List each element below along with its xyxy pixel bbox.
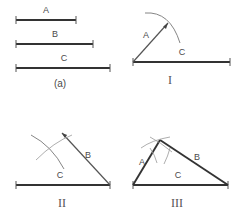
geometry-construction-figure: A B C (a) C A I — [0, 0, 239, 215]
step-two-base-label: C — [57, 170, 64, 180]
step-three-label-b: B — [194, 152, 200, 162]
step-one-compass-arc — [145, 13, 180, 43]
panel-step-two: C B II — [16, 133, 110, 210]
step-one-ray-a — [133, 23, 168, 62]
panel-step-one: C A I — [133, 13, 230, 87]
panel-label-three: III — [171, 196, 183, 210]
step-three-side-a — [133, 140, 160, 185]
panel-step-three: A B C III — [133, 137, 228, 210]
given-segment-c: C — [16, 53, 110, 72]
step-two-compass-arc-left — [31, 135, 64, 169]
panel-given-segments: A B C (a) — [16, 5, 110, 89]
step-three-side-b — [160, 140, 228, 185]
construction-canvas: A B C (a) C A I — [0, 0, 239, 215]
step-three-label-c: C — [175, 170, 182, 180]
step-one-arc-label: A — [143, 30, 149, 40]
step-two-arc-label: B — [85, 150, 91, 160]
segment-a-label: A — [43, 5, 49, 15]
given-segment-a: A — [16, 5, 76, 24]
given-segment-b: B — [16, 29, 93, 48]
panel-label-one: I — [168, 73, 172, 87]
step-three-label-a: A — [139, 157, 145, 167]
step-three-arc-mark-b — [164, 148, 170, 164]
step-one-base-label: C — [179, 47, 186, 57]
segment-c-label: C — [61, 53, 68, 63]
panel-label-a: (a) — [54, 78, 66, 89]
panel-label-two: II — [58, 196, 66, 210]
segment-b-label: B — [52, 29, 58, 39]
